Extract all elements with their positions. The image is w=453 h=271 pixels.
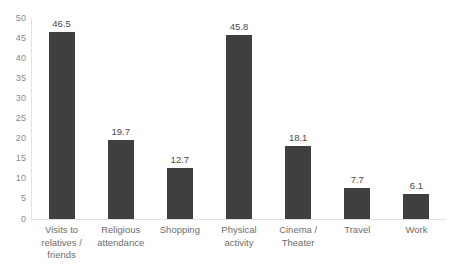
x-axis-tick-label: Shopping (150, 224, 209, 237)
x-axis-category-labels: Visits torelatives /friendsReligiousatte… (32, 224, 446, 271)
x-axis-tick-label-line: attendance (91, 237, 150, 250)
bar-value-label: 18.1 (289, 133, 308, 143)
bar-group: 19.7 (91, 18, 150, 219)
plot-area: 46.519.712.745.818.17.76.1 (32, 18, 446, 219)
bar-group: 7.7 (328, 18, 387, 219)
x-axis-tick-label-line: Cinema / (269, 224, 328, 237)
bar[interactable] (403, 194, 429, 219)
bar-value-label: 7.7 (351, 175, 364, 185)
x-axis-tick-label: Religiousattendance (91, 224, 150, 249)
bar-value-label: 12.7 (171, 155, 190, 165)
x-axis-tick-label-line: Shopping (150, 224, 209, 237)
bar-group: 45.8 (209, 18, 268, 219)
y-tick-label: 15 (0, 154, 26, 163)
y-axis: 05101520253035404550 (0, 0, 26, 271)
bar[interactable] (226, 35, 252, 219)
x-axis-tick-label-line: Theater (269, 237, 328, 250)
x-axis-tick-label: Travel (328, 224, 387, 237)
x-axis-line (31, 219, 446, 220)
bar[interactable] (285, 146, 311, 219)
x-axis-tick-label-line: Travel (328, 224, 387, 237)
x-axis-tick-label: Physicalactivity (209, 224, 268, 249)
bar-group: 12.7 (150, 18, 209, 219)
x-axis-tick-label-line: activity (209, 237, 268, 250)
bar[interactable] (344, 188, 370, 219)
x-axis-tick-label-line: Physical (209, 224, 268, 237)
x-axis-tick-label-line: Visits to (32, 224, 91, 237)
x-axis-tick-label-line: Work (387, 224, 446, 237)
x-axis-tick-label: Cinema /Theater (269, 224, 328, 249)
bar-value-label: 6.1 (410, 181, 423, 191)
y-tick-label: 30 (0, 94, 26, 103)
bar[interactable] (108, 140, 134, 219)
bar-group: 6.1 (387, 18, 446, 219)
y-tick-label: 20 (0, 134, 26, 143)
y-tick-label: 25 (0, 114, 26, 123)
y-tick-label: 50 (0, 14, 26, 23)
y-tick-label: 45 (0, 34, 26, 43)
x-axis-tick-label-line: Religious (91, 224, 150, 237)
bar-value-label: 19.7 (111, 127, 130, 137)
x-axis-tick-label-line: friends (32, 249, 91, 262)
bar-chart: 05101520253035404550 46.519.712.745.818.… (0, 0, 453, 271)
x-axis-tick-label: Visits torelatives /friends (32, 224, 91, 262)
bar[interactable] (49, 32, 75, 219)
bar-group: 46.5 (32, 18, 91, 219)
y-tick-label: 10 (0, 174, 26, 183)
bar-group: 18.1 (269, 18, 328, 219)
bar[interactable] (167, 168, 193, 219)
bar-value-label: 46.5 (52, 19, 71, 29)
bar-value-label: 45.8 (230, 22, 249, 32)
y-tick-label: 40 (0, 54, 26, 63)
y-tick-label: 0 (0, 215, 26, 224)
x-axis-tick-label: Work (387, 224, 446, 237)
y-tick-label: 35 (0, 74, 26, 83)
y-tick-label: 5 (0, 194, 26, 203)
x-axis-tick-label-line: relatives / (32, 237, 91, 250)
